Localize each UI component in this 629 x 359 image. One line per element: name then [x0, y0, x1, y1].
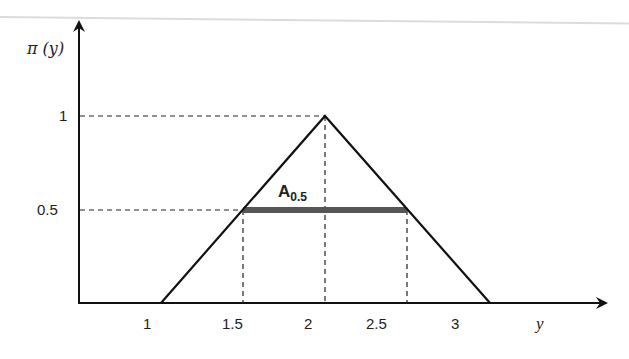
- chart-canvas: [0, 0, 629, 359]
- x-tick-2: 2: [304, 315, 312, 332]
- x-tick-1: 1: [143, 315, 151, 332]
- y-tick-0-5: 0.5: [37, 201, 58, 218]
- alpha-cut-label: A0.5: [278, 182, 307, 204]
- x-tick-3: 3: [451, 315, 459, 332]
- alpha-cut-subscript: 0.5: [290, 190, 307, 204]
- x-axis-label: y: [536, 314, 544, 334]
- y-axis-label: π (y): [27, 39, 64, 58]
- x-tick-2-5: 2.5: [366, 315, 387, 332]
- y-tick-1: 1: [59, 107, 67, 124]
- alpha-cut-letter: A: [278, 182, 290, 201]
- x-tick-1-5: 1.5: [222, 315, 243, 332]
